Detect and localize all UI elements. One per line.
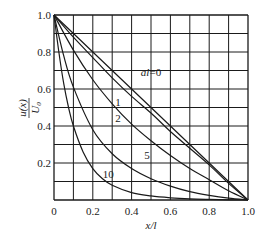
y-axis-label: u(x) U0 [16,98,43,118]
curve-label: al=0 [141,66,162,78]
x-tick-label: 0.8 [202,205,216,217]
y-tick-label: 0.2 [37,157,51,169]
x-tick-label: 0.6 [164,205,178,217]
curve-label: 10 [103,168,115,180]
x-axis-label: x/l [145,219,157,231]
x-tick-label: 1.0 [241,205,255,217]
y-tick-label: 0.4 [37,120,51,132]
y-tick-label: 1.0 [37,9,51,21]
curve-label: 2 [115,112,121,124]
y-tick-label: 0.8 [37,46,51,58]
x-tick-label: 0 [51,205,57,217]
x-tick-label: 0.4 [125,205,139,217]
curve-label: 5 [144,149,150,161]
y-axis-label-denominator: U0 [29,102,43,114]
x-tick-label: 0.2 [86,205,100,217]
y-tick-label: 0.6 [37,83,51,95]
y-axis-ticks: 0.20.40.60.81.0 [37,9,51,169]
y-axis-label-numerator: u(x) [16,99,29,117]
line-chart: al=012510 00.20.40.60.81.0 0.20.40.60.81… [0,0,263,236]
curve-label: 1 [115,96,121,108]
x-axis-ticks: 00.20.40.60.81.0 [51,205,255,217]
